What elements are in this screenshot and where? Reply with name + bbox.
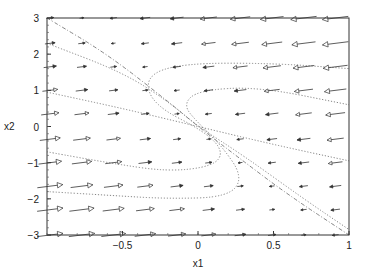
- vector-arrow: [37, 231, 63, 236]
- y-tick-label: 2: [33, 49, 39, 60]
- vector-arrow: [323, 42, 349, 47]
- vector-arrow: [109, 89, 118, 92]
- vector-arrow: [204, 185, 213, 188]
- vector-arrow: [139, 161, 152, 164]
- trajectory-separatrix-solid: [47, 18, 349, 235]
- vector-arrow: [234, 89, 246, 92]
- x-axis-label: x1: [193, 258, 204, 269]
- vector-arrow: [169, 207, 184, 211]
- vector-arrow: [291, 16, 317, 21]
- vector-arrow: [72, 160, 92, 165]
- vector-arrow: [143, 66, 148, 68]
- vector-arrow: [205, 113, 211, 115]
- vector-arrow: [202, 42, 216, 46]
- vector-arrow: [105, 160, 121, 164]
- vector-arrow: [233, 65, 248, 69]
- vector-arrow: [297, 138, 310, 142]
- vector-arrow: [108, 112, 119, 115]
- x-tick-label: −0.5: [113, 240, 133, 251]
- vector-arrow: [140, 137, 151, 140]
- vector-arrow: [296, 112, 312, 116]
- vector-arrow: [268, 162, 276, 164]
- vector-arrow: [269, 185, 274, 187]
- vector-arrow: [78, 42, 85, 44]
- trajectory-traj-3: [47, 63, 349, 170]
- vector-arrow: [110, 66, 116, 68]
- vector-arrow: [236, 208, 245, 211]
- y-tick-label: 0: [33, 122, 39, 133]
- vector-arrow: [200, 16, 217, 20]
- vector-arrow: [77, 65, 86, 68]
- vector-arrow: [328, 161, 342, 165]
- vector-arrow: [141, 112, 149, 115]
- vector-arrow: [323, 16, 349, 21]
- vector-arrow: [203, 66, 214, 69]
- vector-arrow: [173, 138, 180, 140]
- vector-arrow: [37, 206, 63, 211]
- vector-arrow: [294, 89, 313, 93]
- trajectory-traj-1: [47, 43, 349, 229]
- vector-arrow: [76, 88, 88, 91]
- vector-arrow: [300, 185, 308, 188]
- vector-arrow: [260, 16, 283, 21]
- vector-arrow: [73, 137, 90, 141]
- y-tick-label: −1: [28, 158, 40, 169]
- vector-arrow: [298, 161, 309, 164]
- vector-arrow: [104, 183, 123, 188]
- vector-arrow: [69, 206, 94, 211]
- vector-arrow: [69, 231, 95, 236]
- y-tick-label: 1: [33, 85, 39, 96]
- vector-arrow: [172, 161, 182, 164]
- vector-arrow: [331, 209, 340, 212]
- vector-arrow: [136, 207, 154, 211]
- vector-arrow: [235, 113, 245, 116]
- vector-arrow: [237, 185, 243, 187]
- vector-arrow: [330, 185, 342, 188]
- vector-arrow: [142, 89, 148, 91]
- vector-arrow: [141, 42, 148, 44]
- vector-arrow: [204, 89, 213, 92]
- vector-arrow: [41, 111, 59, 115]
- vector-arrow: [203, 208, 215, 211]
- vector-arrow: [230, 16, 250, 21]
- vector-arrow: [171, 184, 183, 187]
- vector-arrow: [74, 112, 88, 116]
- vector-arrow: [263, 65, 281, 69]
- trajectory-traj-4: [47, 88, 349, 198]
- vector-arrow: [71, 183, 93, 188]
- vector-arrow: [262, 42, 282, 47]
- vector-arrow: [205, 161, 212, 163]
- vector-arrow: [172, 42, 183, 45]
- vector-arrow: [174, 113, 179, 115]
- vector-arrow: [266, 113, 279, 116]
- vector-arrow: [292, 41, 316, 46]
- vector-arrow: [238, 162, 242, 164]
- phase-portrait-chart: −3−2−10123 −0.500.51 x1 x2: [0, 0, 365, 278]
- x-tick-label: 0.5: [267, 240, 281, 251]
- vector-arrow: [137, 184, 153, 188]
- vector-arrow: [301, 209, 307, 211]
- vector-arrow: [101, 231, 125, 236]
- vector-arrow: [324, 89, 346, 94]
- vector-arrow: [111, 42, 115, 44]
- vector-arrow: [237, 138, 244, 140]
- vector-arrow: [327, 138, 344, 142]
- vector-arrow: [106, 137, 120, 141]
- vector-arrow: [174, 89, 180, 91]
- y-tick-label: 3: [33, 13, 39, 24]
- vector-arrow: [206, 138, 210, 140]
- vector-arrow: [267, 138, 277, 141]
- vector-arrow: [269, 209, 274, 211]
- y-tick-label: −3: [28, 230, 40, 241]
- y-tick-label: −2: [28, 194, 40, 205]
- vector-arrow: [39, 159, 62, 164]
- y-axis-label: x2: [4, 121, 15, 132]
- trajectories: [47, 18, 349, 235]
- vector-arrow: [326, 112, 345, 117]
- vector-arrow: [232, 42, 249, 46]
- vector-arrow: [103, 206, 124, 211]
- vector-arrow: [40, 136, 60, 141]
- vector-arrow: [37, 183, 62, 188]
- x-tick-label: 0: [195, 240, 201, 251]
- vector-arrow: [44, 65, 57, 68]
